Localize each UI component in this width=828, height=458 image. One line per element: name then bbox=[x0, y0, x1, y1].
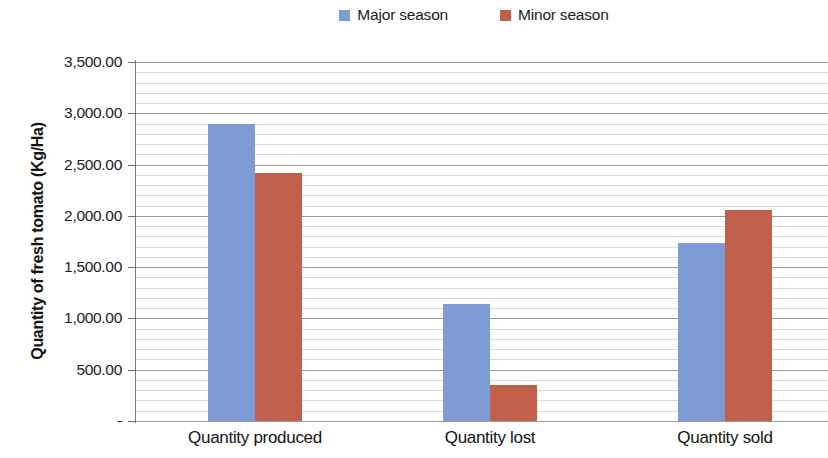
legend-label-minor-season: Minor season bbox=[518, 6, 609, 24]
gridline-major bbox=[136, 62, 828, 63]
y-axis-tick-label: 500.00 bbox=[2, 362, 122, 378]
gridline-minor bbox=[136, 93, 828, 94]
y-axis-tick-label: 3,000.00 bbox=[2, 106, 122, 122]
y-axis-tick-mark bbox=[128, 216, 136, 217]
y-axis-tick-label: 3,500.00 bbox=[2, 54, 122, 70]
bar-major-season[interactable] bbox=[678, 243, 725, 421]
gridline-minor bbox=[136, 72, 828, 73]
y-axis-tick-mark bbox=[128, 165, 136, 166]
legend-item-major-season[interactable]: Major season bbox=[339, 6, 448, 24]
y-axis-tick-label: 2,000.00 bbox=[2, 208, 122, 224]
legend-swatch-major-season bbox=[339, 10, 350, 21]
gridline-major bbox=[136, 421, 828, 422]
y-axis-tick-mark bbox=[128, 267, 136, 268]
gridline-major bbox=[136, 113, 828, 114]
bar-minor-season[interactable] bbox=[490, 385, 537, 421]
x-axis-category-label: Quantity sold bbox=[677, 428, 772, 448]
bar-minor-season[interactable] bbox=[255, 173, 302, 421]
y-axis-tick-mark bbox=[128, 62, 136, 63]
gridline-minor bbox=[136, 103, 828, 104]
bar-chart-figure: Major season Minor season Quantity of fr… bbox=[0, 0, 828, 458]
y-axis-tick-mark bbox=[128, 113, 136, 114]
bar-minor-season[interactable] bbox=[725, 210, 772, 421]
y-axis-tick-mark bbox=[128, 318, 136, 319]
legend-label-major-season: Major season bbox=[357, 6, 448, 24]
plot-area bbox=[136, 62, 828, 421]
x-axis-category-label: Quantity produced bbox=[188, 428, 322, 448]
gridline-minor bbox=[136, 83, 828, 84]
y-axis-tick-label: - bbox=[2, 413, 122, 429]
chart-legend: Major season Minor season bbox=[0, 6, 828, 24]
y-axis-tick-labels: -500.001,000.001,500.002,000.002,500.003… bbox=[0, 0, 122, 458]
legend-swatch-minor-season bbox=[500, 10, 511, 21]
y-axis-tick-mark bbox=[128, 370, 136, 371]
bar-major-season[interactable] bbox=[208, 124, 255, 421]
legend-item-minor-season[interactable]: Minor season bbox=[500, 6, 609, 24]
y-axis-tick-label: 1,500.00 bbox=[2, 259, 122, 275]
x-axis-category-label: Quantity lost bbox=[445, 428, 536, 448]
x-axis-category-labels: Quantity producedQuantity lostQuantity s… bbox=[136, 428, 828, 458]
y-axis-tick-mark bbox=[128, 421, 136, 422]
y-axis-tick-label: 2,500.00 bbox=[2, 157, 122, 173]
y-axis-tick-label: 1,000.00 bbox=[2, 311, 122, 327]
bar-major-season[interactable] bbox=[443, 304, 490, 421]
